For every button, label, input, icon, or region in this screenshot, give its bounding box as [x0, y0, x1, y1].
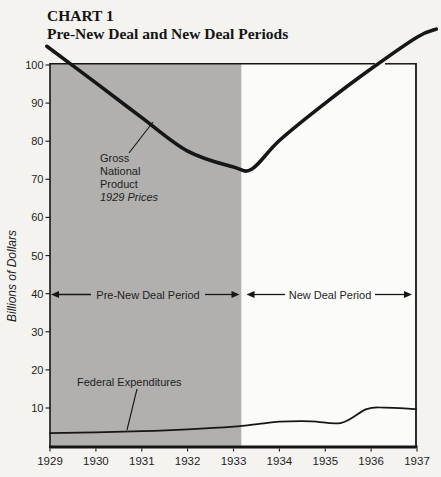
- fed-label: Federal Expenditures: [77, 376, 182, 388]
- y-axis-tick-label: 30: [31, 326, 43, 338]
- chart-page: CHART 1 Pre-New Deal and New Deal Period…: [0, 0, 441, 477]
- x-axis-tick-label: 1936: [358, 455, 384, 467]
- x-axis-tick-label: 1932: [175, 455, 201, 467]
- new-deal-period-label: New Deal Period: [289, 289, 372, 301]
- y-axis-tick-label: 50: [31, 250, 43, 262]
- gnp-label-line: 1929 Prices: [100, 191, 159, 203]
- x-axis-tick-label: 1930: [83, 455, 109, 467]
- chart-canvas: 1020304050607080901001929193019311932193…: [0, 0, 441, 477]
- y-axis-tick-label: 70: [31, 173, 43, 185]
- x-axis-tick-label: 1933: [221, 455, 247, 467]
- y-axis-tick-label: 40: [31, 288, 43, 300]
- gnp-label-line: National: [100, 165, 140, 177]
- y-axis-tick-label: 100: [25, 59, 43, 71]
- x-axis-tick-label: 1935: [313, 455, 339, 467]
- y-axis-tick-label: 60: [31, 211, 43, 223]
- gnp-label-line: Gross: [100, 152, 130, 164]
- y-axis-tick-label: 90: [31, 97, 43, 109]
- y-axis-tick-label: 20: [31, 364, 43, 376]
- gnp-label-line: Product: [100, 178, 138, 190]
- y-axis-title: Billions of Dollars: [5, 230, 19, 322]
- y-axis-tick-label: 80: [31, 135, 43, 147]
- y-axis-tick-label: 10: [31, 402, 43, 414]
- x-axis-tick-label: 1934: [267, 455, 293, 467]
- x-axis-tick-label: 1929: [37, 455, 63, 467]
- x-axis-tick-label: 1931: [129, 455, 155, 467]
- pre-new-deal-period-label: Pre-New Deal Period: [96, 289, 199, 301]
- x-axis-tick-label: 1937: [404, 455, 430, 467]
